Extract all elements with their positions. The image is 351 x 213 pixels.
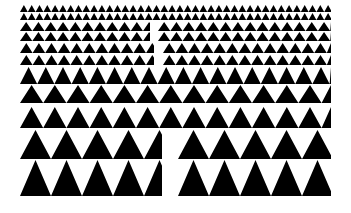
triangle-pattern xyxy=(0,0,351,213)
background xyxy=(0,0,351,213)
